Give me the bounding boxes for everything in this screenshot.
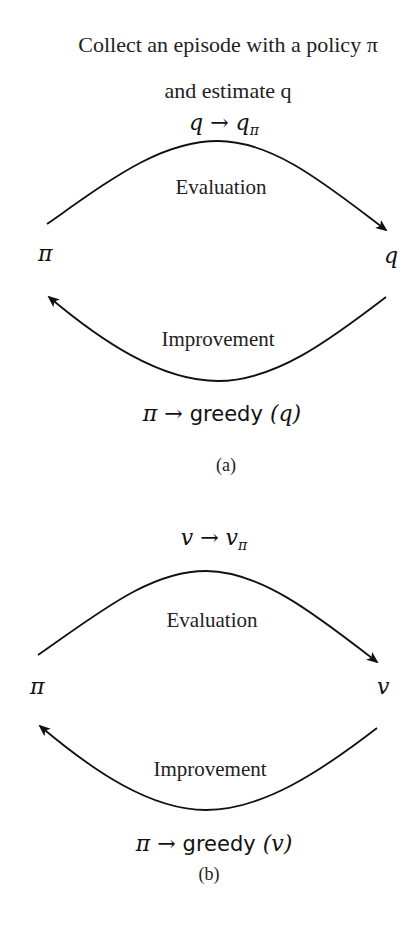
greedy-word: greedy — [183, 832, 256, 856]
formula-rhs: q — [236, 110, 250, 135]
formula-lhs: π — [143, 401, 157, 426]
diagram-a-eval-formula: q → qπ — [189, 112, 259, 134]
title-line1-text: Collect an episode with a policy π — [78, 32, 377, 57]
diagram-b-evaluation-label: Evaluation — [167, 610, 258, 631]
formula-subscript: π — [238, 537, 247, 553]
diagram-b-eval-formula: v → vπ — [181, 527, 248, 549]
arrow-symbol: → — [210, 110, 228, 135]
diagram-a-title-line1: Collect an episode with a policy π — [78, 34, 377, 56]
diagram-b-v-node: v — [377, 676, 389, 698]
formula-lhs: q — [189, 110, 203, 135]
formula-lhs: π — [136, 831, 150, 856]
cycle-arrows — [0, 0, 415, 925]
formula-lhs: v — [181, 525, 193, 550]
formula-arg: (q) — [270, 401, 301, 426]
diagram-b-caption: (b) — [199, 865, 220, 883]
title-line2-text: and estimate q — [164, 78, 291, 103]
diagram-b-policy-node: π — [30, 676, 44, 698]
diagram-a-q-node: q — [384, 245, 398, 267]
diagram-a-evaluation-label: Evaluation — [176, 177, 267, 198]
diagram-a-policy-node: π — [38, 243, 52, 265]
greedy-word: greedy — [190, 402, 263, 426]
arrow-symbol: → — [164, 401, 182, 426]
arrow-symbol: → — [200, 525, 218, 550]
diagram-a-title-line2: and estimate q — [164, 80, 291, 102]
formula-rhs: v — [226, 525, 238, 550]
diagram-a-caption: (a) — [216, 456, 236, 474]
diagram-b-improve-formula: π → greedy (v) — [136, 833, 293, 855]
arrow-symbol: → — [157, 831, 175, 856]
formula-subscript: π — [250, 122, 259, 138]
diagram-a-improve-formula: π → greedy (q) — [143, 403, 301, 425]
formula-arg: (v) — [263, 831, 293, 856]
diagram-a-improvement-label: Improvement — [161, 329, 274, 350]
diagram-b-improvement-label: Improvement — [153, 759, 266, 780]
